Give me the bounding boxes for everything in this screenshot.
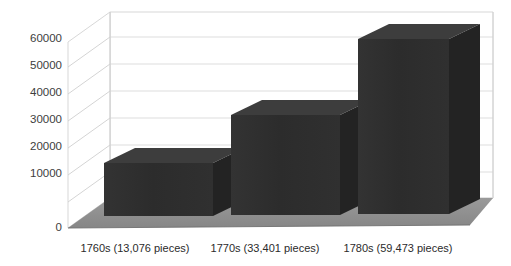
category-label-1760s: 1760s (13,076 pieces) [81,242,190,254]
bar-chart-figure: 60000 50000 40000 30000 20000 10000 0 17… [0,0,511,266]
chart-canvas: 60000 50000 40000 30000 20000 10000 0 17… [0,0,511,266]
y-tick-label: 50000 [30,59,62,71]
x-axis-category-labels: 1760s (13,076 pieces) 1770s (33,401 piec… [81,242,453,254]
bar-1780s[interactable] [358,24,480,214]
bar-1770s-front-face [231,115,340,215]
bar-1760s-front-face [104,163,213,216]
y-axis-tick-labels: 60000 50000 40000 30000 20000 10000 0 [30,32,62,233]
bar-1780s-front-face [358,39,449,214]
y-tick-label: 20000 [30,140,62,152]
y-tick-label: 30000 [30,113,62,125]
bar-1780s-side-face [449,24,480,214]
bar-1770s[interactable] [231,100,371,215]
y-tick-label: 40000 [30,86,62,98]
category-label-1770s: 1770s (33,401 pieces) [211,242,320,254]
category-label-1780s: 1780s (59,473 pieces) [344,242,453,254]
bar-1760s[interactable] [104,148,244,216]
y-tick-label: 0 [56,221,62,233]
left-side-wall [68,12,110,228]
y-tick-label: 10000 [30,167,62,179]
y-tick-label: 60000 [30,32,62,44]
